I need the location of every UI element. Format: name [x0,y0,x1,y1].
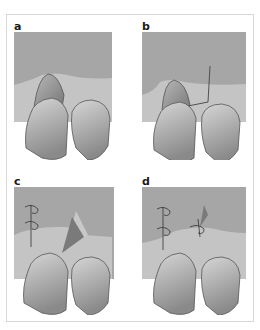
diagram-c [12,175,127,315]
panel-b: b [140,20,255,160]
diagram-d [140,175,255,315]
diagram-b [140,20,255,160]
panel-d: d [140,175,255,315]
panel-a: a [12,20,127,160]
panel-c: c [12,175,127,315]
diagram-a [12,20,127,160]
